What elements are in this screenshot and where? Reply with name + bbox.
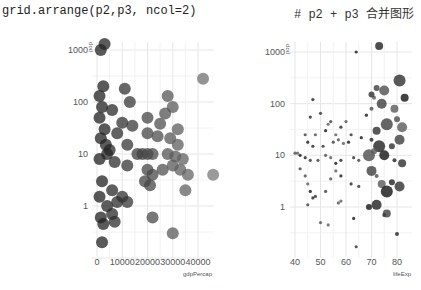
data-point [106,184,118,196]
data-point [304,133,307,136]
data-point [355,50,358,53]
data-point [350,133,353,136]
data-point [367,166,377,176]
data-point [154,118,166,130]
data-point [389,179,395,185]
data-point [152,130,164,142]
data-point [162,90,174,102]
data-point [106,104,118,116]
data-point [329,177,332,180]
y-axis-label: pop [284,43,290,54]
data-point [329,156,332,159]
x-axis-label: gdpPercap [183,271,213,277]
data-point [124,96,136,108]
data-point [299,154,302,157]
data-point [372,200,382,210]
data-point [121,160,133,172]
data-point [144,179,156,191]
data-point [360,136,363,139]
data-point [147,148,159,160]
data-point [99,38,111,50]
data-point [350,182,353,185]
data-point [147,212,159,224]
data-point [296,152,299,155]
data-point [337,138,340,141]
data-point [383,209,391,217]
x-tick-label: 10000 [110,257,135,267]
data-point [96,101,108,113]
data-point [309,115,312,118]
data-point [304,156,307,159]
data-point [379,85,389,95]
data-point [334,162,337,165]
data-point [316,159,319,162]
data-point [342,142,345,145]
data-point [395,232,399,236]
scatter-plot-lifeexp-vs-pop: 40506070801101001000lifeExppop [265,42,412,277]
x-tick-label: 0 [94,257,99,267]
x-axis-label: lifeExp [393,271,412,277]
data-point [339,174,342,177]
data-point [344,120,347,123]
data-point [374,85,380,91]
data-point [109,156,121,168]
data-point [352,217,355,220]
data-point [339,200,342,203]
data-point [339,159,342,162]
data-point [142,127,154,139]
data-point [394,116,400,122]
scatter-plots-grid: 0100002000030000400001101001000gdpPercap… [0,0,421,290]
y-tick-label: 1 [280,202,285,212]
data-point [398,159,406,167]
data-point [311,145,314,148]
data-point [97,218,109,230]
data-point [381,118,393,130]
data-point [370,107,374,111]
data-point [177,153,189,165]
data-point [319,112,322,115]
data-point [96,236,108,248]
data-point [121,196,133,208]
data-point [366,204,372,210]
data-point [126,120,138,132]
data-point [179,184,191,196]
data-point [395,135,405,145]
data-point [332,141,335,144]
data-point [371,148,377,154]
data-point [321,145,324,148]
data-point [207,169,219,181]
data-point [347,141,350,144]
data-point [355,245,358,248]
data-point [357,185,360,188]
data-point [94,90,106,102]
data-point [369,92,375,98]
data-point [379,150,389,160]
x-tick-label: 80 [392,257,402,267]
x-tick-label: 20000 [135,257,160,267]
y-tick-label: 1000 [265,47,285,57]
data-point [392,158,396,162]
data-point [390,105,398,113]
data-point [324,154,327,157]
data-point [306,182,309,185]
data-point [401,94,409,102]
y-tick-label: 10 [275,150,285,160]
data-point [94,153,106,165]
data-point [116,117,128,129]
data-point [119,83,131,95]
data-point [397,122,407,132]
data-point [182,169,194,181]
data-point [365,114,368,117]
data-point [314,195,317,198]
data-point [352,156,355,159]
x-tick-label: 40000 [185,257,210,267]
data-point [314,133,317,136]
data-point [334,133,337,136]
data-point [327,223,330,226]
y-tick-label: 1000 [68,45,88,55]
data-point [299,167,302,170]
y-axis-label: pop [87,41,93,52]
data-point [94,112,106,124]
data-point [109,216,121,228]
data-point [370,138,374,142]
